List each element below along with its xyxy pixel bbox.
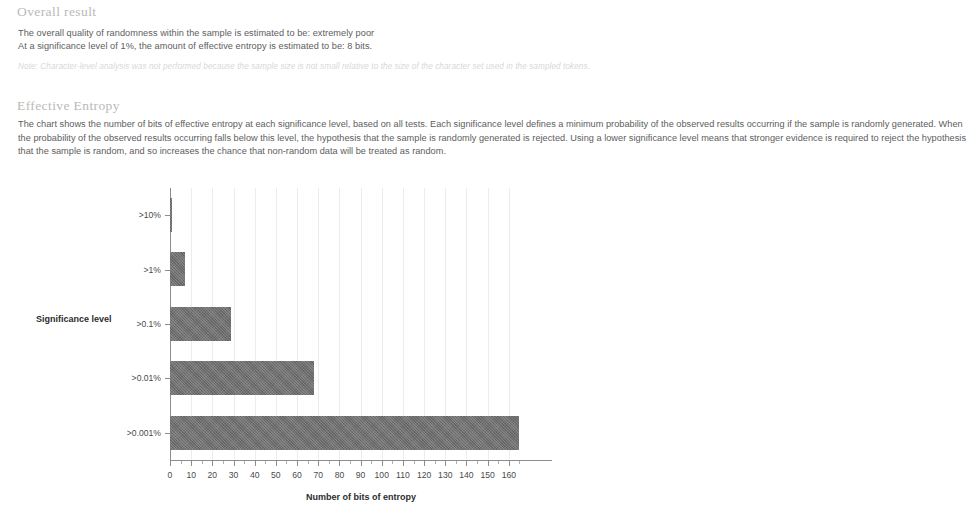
chart-x-tick-minor <box>435 461 436 464</box>
chart-plot-area: >10%>1%>0.1%>0.01%>0.001% <box>170 188 530 460</box>
chart-x-tick <box>424 461 425 466</box>
chart-x-tick-label: 40 <box>250 470 260 480</box>
chart-bar-row: >0.01% <box>170 351 530 405</box>
chart-x-tick <box>509 461 510 466</box>
chart-x-tick-label: 20 <box>208 470 218 480</box>
chart-x-tick-label: 100 <box>375 470 389 480</box>
overall-quality-statement: The overall quality of randomness within… <box>18 28 374 38</box>
chart-x-tick <box>382 461 383 466</box>
chart-y-tick-label: >0.001% <box>127 428 161 438</box>
chart-y-tick-label: >10% <box>139 210 161 220</box>
chart-x-tick-label: 0 <box>168 470 173 480</box>
chart-bar <box>170 252 185 286</box>
chart-x-tick-minor <box>392 461 393 464</box>
section-heading-overall-result: Overall result <box>17 4 96 20</box>
section-heading-effective-entropy: Effective Entropy <box>17 98 120 114</box>
chart-x-axis-title: Number of bits of entropy <box>170 492 552 502</box>
effective-entropy-statement: At a significance level of 1%, the amoun… <box>18 41 372 51</box>
chart-x-tick <box>276 461 277 466</box>
chart-x-tick <box>191 461 192 466</box>
chart-x-tick-label: 120 <box>417 470 431 480</box>
chart-x-tick-minor <box>350 461 351 464</box>
chart-bar-row: >10% <box>170 188 530 242</box>
chart-x-tick-label: 50 <box>271 470 281 480</box>
chart-x-tick <box>170 461 171 466</box>
chart-y-tick <box>165 270 170 271</box>
chart-x-tick-minor <box>265 461 266 464</box>
analysis-note: Note: Character-level analysis was not p… <box>18 62 590 71</box>
chart-x-tick <box>234 461 235 466</box>
chart-x-tick <box>318 461 319 466</box>
chart-x-tick-minor <box>244 461 245 464</box>
chart-y-tick <box>165 433 170 434</box>
chart-x-tick-minor <box>223 461 224 464</box>
chart-x-tick <box>466 461 467 466</box>
chart-bar <box>170 307 231 341</box>
chart-bar-row: >1% <box>170 242 530 296</box>
chart-x-tick-label: 130 <box>438 470 452 480</box>
chart-x-tick <box>297 461 298 466</box>
chart-x-tick <box>403 461 404 466</box>
chart-x-tick <box>445 461 446 466</box>
chart-x-tick <box>255 461 256 466</box>
effective-entropy-description: The chart shows the number of bits of ef… <box>18 118 971 159</box>
chart-x-tick-minor <box>456 461 457 464</box>
chart-y-tick <box>165 378 170 379</box>
chart-x-tick-label: 80 <box>335 470 345 480</box>
chart-x-tick-minor <box>414 461 415 464</box>
chart-bar <box>170 361 314 395</box>
chart-x-tick-minor <box>329 461 330 464</box>
chart-bar <box>170 416 519 450</box>
chart-y-tick <box>165 324 170 325</box>
chart-x-tick-label: 90 <box>356 470 366 480</box>
chart-bar-row: >0.001% <box>170 406 530 460</box>
chart-y-tick <box>165 215 170 216</box>
chart-x-tick <box>339 461 340 466</box>
effective-entropy-chart: Significance level 010203040506070809010… <box>0 178 933 530</box>
chart-x-tick-label: 60 <box>292 470 302 480</box>
chart-bar <box>170 198 172 232</box>
chart-x-tick-minor <box>181 461 182 464</box>
chart-x-tick-label: 110 <box>396 470 410 480</box>
chart-bar-row: >0.1% <box>170 297 530 351</box>
chart-y-axis-title: Significance level <box>36 314 112 324</box>
chart-x-tick <box>212 461 213 466</box>
chart-y-tick-label: >0.01% <box>132 373 161 383</box>
chart-x-tick-label: 150 <box>480 470 494 480</box>
chart-x-tick-label: 10 <box>186 470 196 480</box>
chart-x-tick <box>361 461 362 466</box>
chart-x-tick-minor <box>519 461 520 464</box>
chart-x-tick-minor <box>477 461 478 464</box>
chart-x-tick-label: 160 <box>502 470 516 480</box>
chart-x-tick-minor <box>371 461 372 464</box>
chart-y-tick-label: >0.1% <box>136 319 161 329</box>
chart-x-tick-minor <box>286 461 287 464</box>
chart-x-tick-minor <box>308 461 309 464</box>
chart-x-tick-minor <box>202 461 203 464</box>
chart-x-tick-label: 140 <box>459 470 473 480</box>
chart-y-tick-label: >1% <box>144 265 161 275</box>
chart-x-tick-label: 30 <box>229 470 239 480</box>
chart-x-tick <box>488 461 489 466</box>
chart-x-tick-label: 70 <box>313 470 323 480</box>
chart-x-tick-minor <box>498 461 499 464</box>
